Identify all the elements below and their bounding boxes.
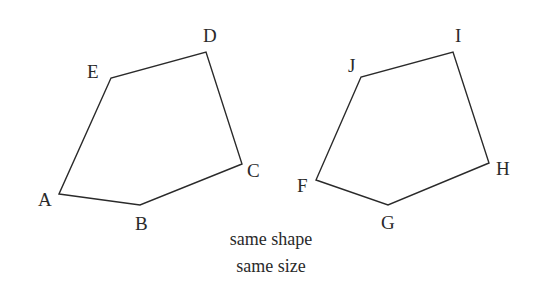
- vertex-label-h: H: [496, 158, 510, 179]
- caption-line-2: same size: [236, 256, 305, 276]
- diagram-canvas: ABCDE FGHIJ same shape same size: [0, 0, 539, 299]
- vertex-label-g: G: [381, 212, 395, 233]
- vertex-label-j: J: [348, 55, 355, 76]
- pentagon-fghij: [316, 52, 489, 205]
- vertex-label-e: E: [87, 61, 99, 82]
- vertex-label-c: C: [247, 160, 260, 181]
- vertex-label-b: B: [135, 213, 148, 234]
- pentagon-abcde-labels: ABCDE: [38, 25, 260, 234]
- caption-line-1: same shape: [230, 229, 312, 249]
- vertex-label-d: D: [203, 25, 217, 46]
- vertex-label-i: I: [455, 25, 461, 46]
- vertex-label-a: A: [38, 189, 52, 210]
- vertex-label-f: F: [297, 175, 308, 196]
